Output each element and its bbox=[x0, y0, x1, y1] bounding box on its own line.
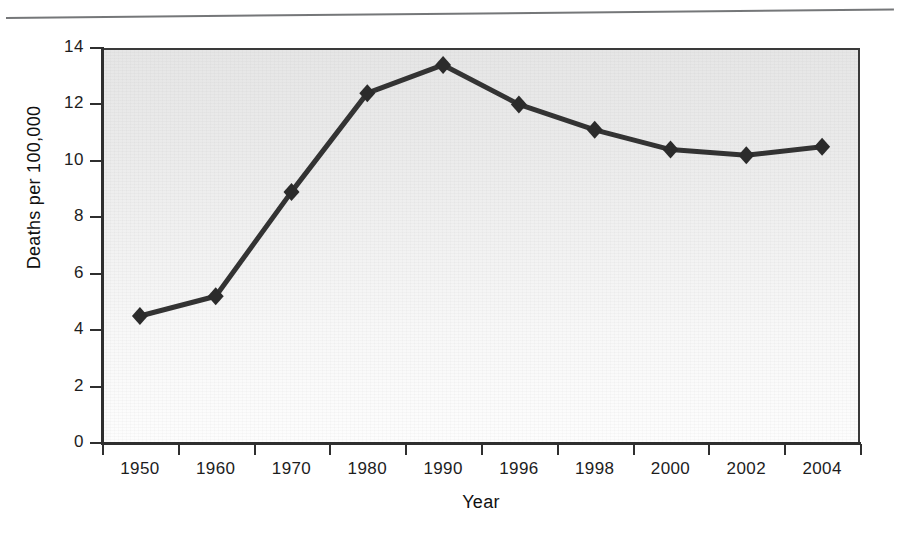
data-point-1990 bbox=[435, 56, 451, 74]
line-chart: 02468101214 1950196019701980199019961998… bbox=[0, 0, 900, 541]
data-point-1950 bbox=[132, 307, 148, 325]
data-point-2002 bbox=[738, 146, 754, 164]
data-point-1998 bbox=[587, 121, 603, 139]
data-series-layer bbox=[0, 0, 900, 541]
x-axis-title: Year bbox=[102, 492, 860, 513]
series-line bbox=[140, 65, 822, 316]
data-point-1996 bbox=[511, 95, 527, 113]
y-axis-title: Deaths per 100,000 bbox=[24, 88, 45, 288]
data-point-2000 bbox=[663, 141, 679, 159]
data-point-2004 bbox=[814, 138, 830, 156]
page-root: 02468101214 1950196019701980199019961998… bbox=[0, 0, 900, 541]
series-markers bbox=[132, 56, 830, 325]
